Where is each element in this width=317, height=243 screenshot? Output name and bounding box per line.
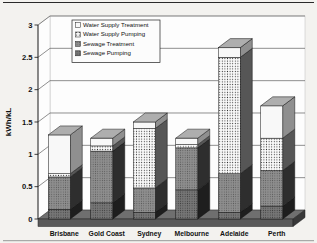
tick-label: 0.5 [22,182,33,191]
legend-swatch-water-supply-treatment [76,23,81,28]
bar-segment-adelaide-sewage-treatment [218,174,240,213]
category-label-sydney: Sydney [137,230,161,238]
bar-segment-adelaide-sewage-pumping [218,213,240,219]
bar-segment-adelaide-water-supply-treatment [218,48,240,58]
category-label-adelaide: Adelaide [220,230,249,237]
bar-segment-melbourne-sewage-treatment [176,148,198,190]
tick-label: 0 [28,215,32,224]
legend-swatch-sewage-treatment [76,41,81,46]
bar-segment-adelaide-water-supply-pumping [218,57,240,173]
y-axis-title: kWh/kL [4,108,13,137]
legend-label-sewage-pumping: Sewage Pumping [83,49,131,56]
figure-scan: BrisbaneGold CoastSydneyMelbourneAdelaid… [0,0,317,243]
category-label-gold-coast: Gold Coast [89,230,126,237]
bar-segment-perth-sewage-treatment [261,170,283,206]
category-label-perth: Perth [268,230,285,237]
bar-segment-gold-coast-sewage-treatment [91,151,113,203]
bar-segment-brisbane-sewage-pumping [48,209,70,219]
legend-label-water-supply-pumping: Water Supply Pumping [83,30,145,37]
legend-label-sewage-treatment: Sewage Treatment [83,40,134,47]
tick-label: 1.5 [22,118,33,127]
bar-segment-perth-water-supply-treatment [261,106,283,138]
bar-segment-brisbane-sewage-treatment [48,177,70,209]
bar-segment-gold-coast-water-supply-pumping [91,146,113,151]
tick-label: 2 [28,85,32,94]
bar-segment-melbourne-sewage-pumping [176,190,198,219]
bar-segment-gold-coast-water-supply-treatment [91,138,113,146]
energy-per-kl-3d-stacked-bar-chart: BrisbaneGold CoastSydneyMelbourneAdelaid… [0,0,317,243]
legend-swatch-sewage-pumping [76,51,81,56]
category-label-brisbane: Brisbane [50,230,79,237]
bar-segment-sydney-water-supply-treatment [133,122,155,128]
tick-label: 1 [28,150,33,159]
bar-side-adelaide-water-supply-pumping [240,48,252,173]
legend-swatch-water-supply-pumping [76,32,81,37]
bar-segment-gold-coast-sewage-pumping [91,203,113,219]
legend-label-water-supply-treatment: Water Supply Treatment [83,21,149,28]
bar-segment-perth-sewage-pumping [261,206,283,219]
bar-segment-sydney-sewage-pumping [133,213,155,219]
bar-segment-brisbane-water-supply-treatment [48,135,70,174]
bar-segment-sydney-sewage-treatment [133,188,155,213]
bar-segment-melbourne-water-supply-treatment [176,138,198,144]
bar-side-gold-coast-sewage-treatment [113,142,125,203]
floor-front [38,219,293,227]
bar-segment-melbourne-water-supply-pumping [176,145,198,148]
bar-segment-perth-water-supply-pumping [261,138,283,170]
bar-segment-sydney-water-supply-pumping [133,128,155,187]
bar-segment-brisbane-water-supply-pumping [48,174,70,177]
category-label-melbourne: Melbourne [175,230,210,237]
tick-label: 3 [28,21,32,30]
tick-label: 2.5 [22,53,33,62]
bar-side-sydney-water-supply-pumping [155,119,167,187]
